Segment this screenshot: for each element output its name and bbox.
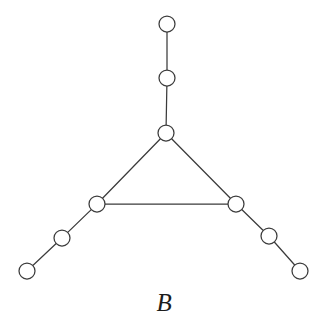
graph-node (54, 230, 70, 246)
graph-edge (166, 86, 167, 125)
graph-node (159, 16, 175, 32)
figure-caption: B (0, 288, 329, 318)
graph-figure: B (0, 0, 329, 331)
graph-edge (172, 139, 231, 199)
graph-node (228, 196, 244, 212)
node-layer (19, 16, 308, 279)
edge-layer (33, 32, 295, 266)
graph-edge (103, 139, 161, 199)
graph-edge (274, 242, 294, 265)
graph-node (292, 263, 308, 279)
graph-canvas (0, 0, 329, 331)
graph-edge (242, 210, 264, 231)
graph-node (159, 70, 175, 86)
graph-node (89, 196, 105, 212)
graph-node (158, 125, 174, 141)
graph-node (19, 263, 35, 279)
graph-edge (33, 243, 56, 265)
graph-edge (68, 210, 92, 233)
graph-node (261, 228, 277, 244)
